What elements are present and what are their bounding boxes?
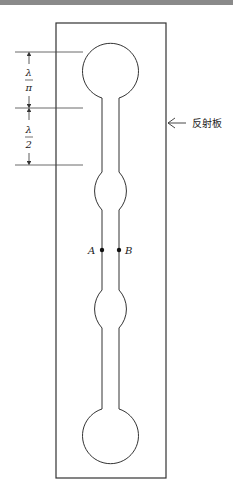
dim-1-denominator: π <box>25 82 33 93</box>
feed-point-a <box>100 248 104 252</box>
reflector-label: 反射板 <box>192 117 222 129</box>
label-a: A <box>87 245 95 256</box>
dim-1-numerator: λ <box>25 67 32 78</box>
dim-2-denominator: 2 <box>25 139 32 150</box>
feed-point-b <box>117 248 121 252</box>
reflector-diagram: A B λ π λ 2 反射板 <box>0 0 233 483</box>
label-b: B <box>124 245 132 256</box>
dim-2-numerator: λ <box>25 124 32 135</box>
reflector-board <box>56 23 166 478</box>
